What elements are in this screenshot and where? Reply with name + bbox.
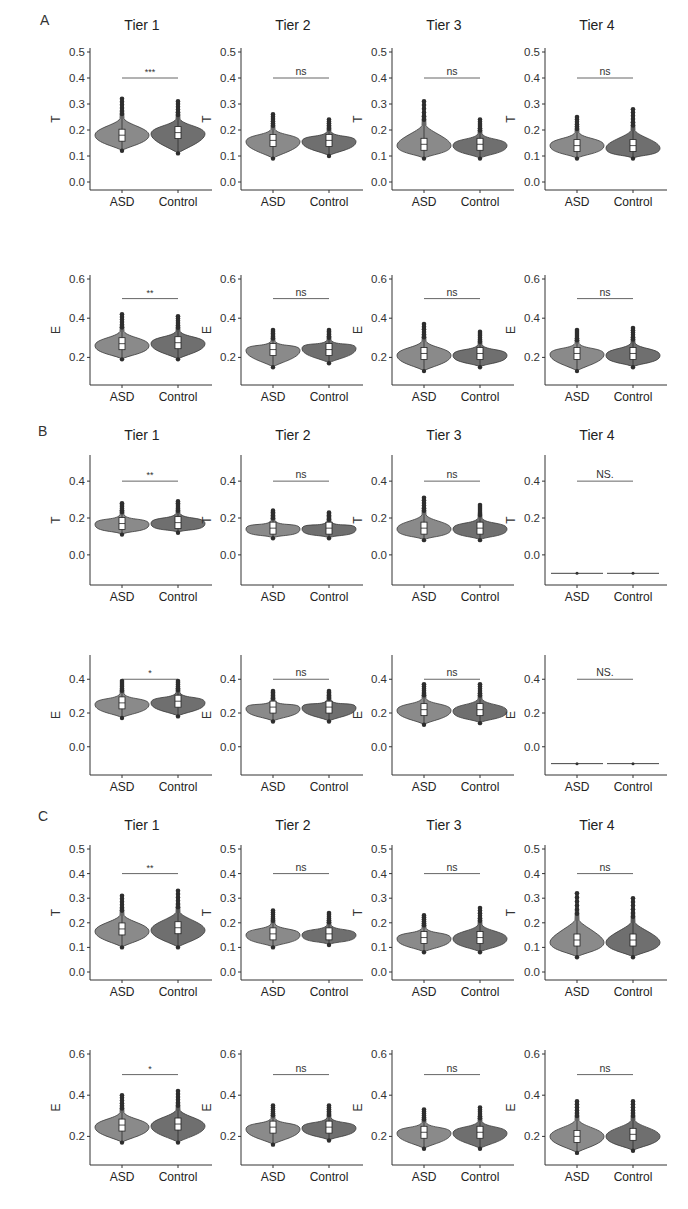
x-tick-label-asd: ASD (565, 390, 590, 404)
y-axis-label: T (200, 115, 214, 123)
x-tick-label-asd: ASD (261, 985, 286, 999)
x-tick-label-asd: ASD (110, 985, 135, 999)
x-tick-label-control: Control (159, 195, 198, 209)
y-tick-label: 0.3 (524, 98, 540, 110)
x-tick-label-asd: ASD (565, 1170, 590, 1184)
significance-label: ** (146, 470, 154, 480)
y-tick-label: 0.4 (220, 1089, 237, 1101)
significance-label: NS. (596, 468, 614, 480)
y-tick-label: 0.4 (69, 312, 86, 324)
y-axis-label: T (351, 516, 365, 524)
y-tick-label: 0.1 (524, 941, 540, 953)
y-tick-label: 0.0 (69, 176, 85, 188)
violin-panel-c-t-tier3: Tier 30.00.10.20.30.40.5TASDControlns (351, 817, 514, 999)
significance-label: ns (446, 468, 457, 480)
y-tick-label: 0.2 (524, 124, 540, 136)
y-tick-label: 0.3 (69, 98, 85, 110)
y-tick-label: 0.2 (69, 707, 85, 719)
x-tick-label-control: Control (159, 390, 198, 404)
y-tick-label: 0.5 (220, 843, 236, 855)
y-tick-label: 0.4 (220, 673, 237, 685)
violin-panel-a-e-tier2: 0.20.40.6EASDControlns (200, 273, 363, 404)
y-axis-label: T (200, 908, 214, 916)
significance-label: ns (446, 861, 457, 873)
violin-panel-c-t-tier1: Tier 10.00.10.20.30.40.5TASDControl** (49, 817, 212, 999)
y-tick-label: 0.2 (220, 351, 236, 363)
y-tick-label: 0.3 (220, 892, 236, 904)
x-tick-label-control: Control (159, 1170, 198, 1184)
violin-panel-c-e-tier3: 0.20.40.6EASDControlns (351, 1048, 514, 1184)
y-tick-label: 0.6 (220, 273, 236, 285)
y-tick-label: 0.1 (220, 150, 236, 162)
y-tick-label: 0.4 (220, 868, 237, 880)
y-tick-label: 0.2 (69, 124, 85, 136)
y-tick-label: 0.3 (371, 98, 387, 110)
x-tick-label-asd: ASD (565, 985, 590, 999)
y-tick-label: 0.2 (220, 917, 236, 929)
y-tick-label: 0.0 (371, 741, 387, 753)
y-tick-label: 0.6 (220, 1048, 236, 1060)
significance-label: ns (446, 65, 457, 77)
x-tick-label-asd: ASD (412, 985, 437, 999)
y-tick-label: 0.6 (371, 273, 387, 285)
y-tick-label: 0.5 (524, 46, 540, 58)
y-tick-label: 0.0 (524, 741, 540, 753)
x-tick-label-asd: ASD (412, 195, 437, 209)
y-axis-label: T (49, 516, 63, 524)
significance-label: ns (295, 286, 306, 298)
y-tick-label: 0.4 (371, 868, 388, 880)
violin-plot-grid: Tier 10.00.10.20.30.40.5TASDControl***Ti… (0, 0, 688, 1209)
panel-title: Tier 1 (124, 17, 159, 33)
y-tick-label: 0.2 (371, 1130, 387, 1142)
y-tick-label: 0.2 (69, 351, 85, 363)
y-axis-label: T (49, 115, 63, 123)
y-tick-label: 0.3 (69, 892, 85, 904)
significance-label: ns (599, 286, 610, 298)
y-tick-label: 0.5 (69, 843, 85, 855)
y-axis-label: E (49, 711, 63, 719)
x-tick-label-control: Control (461, 195, 500, 209)
significance-label: ns (446, 666, 457, 678)
y-tick-label: 0.4 (220, 312, 237, 324)
y-tick-label: 0.6 (371, 1048, 387, 1060)
violin-panel-b-e-tier3: 0.00.20.4EASDControlns (351, 655, 514, 794)
y-axis-label: T (351, 908, 365, 916)
y-axis-label: T (504, 115, 518, 123)
violin-panel-b-e-tier4: 0.00.20.4EASDControlNS. (504, 655, 667, 794)
violin-panel-c-e-tier1: 0.20.40.6EASDControl* (49, 1048, 212, 1184)
violin-panel-b-t-tier1: Tier 10.00.20.4TASDControl** (49, 427, 212, 604)
x-tick-label-control: Control (310, 780, 349, 794)
y-tick-label: 0.4 (524, 868, 541, 880)
y-tick-label: 0.1 (220, 941, 236, 953)
x-tick-label-asd: ASD (565, 780, 590, 794)
x-tick-label-control: Control (614, 390, 653, 404)
y-tick-label: 0.2 (220, 124, 236, 136)
x-tick-label-asd: ASD (565, 590, 590, 604)
violin-panel-a-t-tier1: Tier 10.00.10.20.30.40.5TASDControl*** (49, 17, 212, 209)
x-tick-label-control: Control (310, 590, 349, 604)
significance-label: ns (295, 666, 306, 678)
panel-title: Tier 2 (275, 17, 310, 33)
y-tick-label: 0.4 (69, 72, 86, 84)
y-tick-label: 0.4 (524, 72, 541, 84)
x-tick-label-asd: ASD (261, 390, 286, 404)
y-axis-label: T (200, 516, 214, 524)
y-tick-label: 0.4 (371, 475, 388, 487)
x-tick-label-asd: ASD (412, 390, 437, 404)
violin-panel-b-t-tier2: Tier 20.00.20.4TASDControlns (200, 427, 363, 604)
y-tick-label: 0.0 (220, 741, 236, 753)
y-tick-label: 0.4 (371, 312, 388, 324)
violin-panel-b-e-tier1: 0.00.20.4EASDControl* (49, 655, 212, 794)
violin-panel-c-e-tier4: 0.20.40.6EASDControlns (504, 1048, 667, 1184)
y-tick-label: 0.6 (69, 1048, 85, 1060)
y-tick-label: 0.0 (69, 549, 85, 561)
y-tick-label: 0.1 (371, 150, 387, 162)
y-tick-label: 0.1 (69, 150, 85, 162)
significance-label: ns (599, 65, 610, 77)
y-tick-label: 0.4 (69, 475, 86, 487)
x-tick-label-asd: ASD (110, 1170, 135, 1184)
panel-title: Tier 2 (275, 427, 310, 443)
violin-panel-b-e-tier2: 0.00.20.4EASDControlns (200, 655, 363, 794)
x-tick-label-control: Control (461, 1170, 500, 1184)
x-tick-label-control: Control (310, 390, 349, 404)
